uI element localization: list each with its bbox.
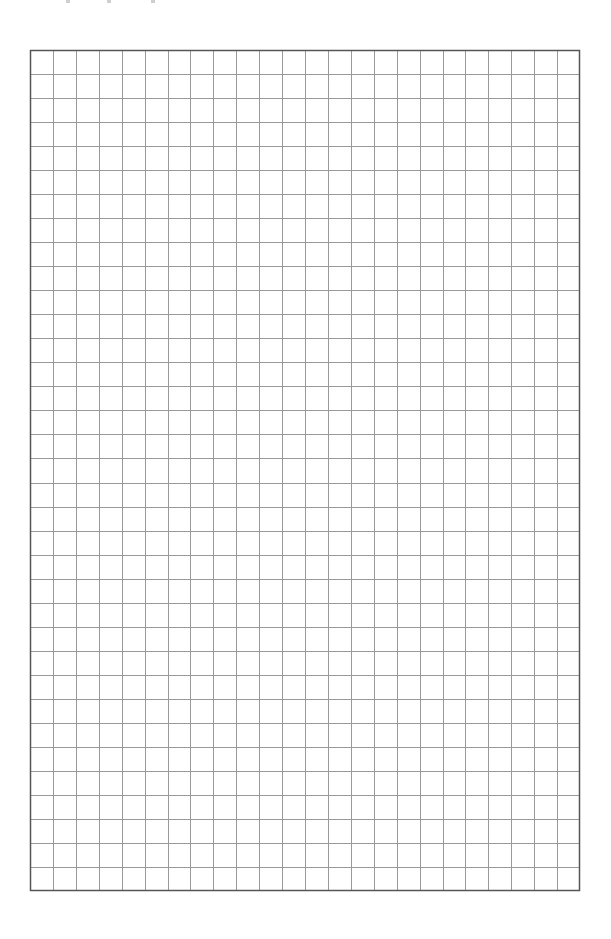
text-descender-fragment	[151, 0, 155, 3]
graph-paper-grid	[30, 50, 580, 891]
cutoff-text-fragments	[60, 0, 170, 6]
text-descender-fragment	[66, 0, 70, 3]
text-descender-fragment	[107, 0, 111, 3]
grid-lines	[30, 50, 580, 891]
